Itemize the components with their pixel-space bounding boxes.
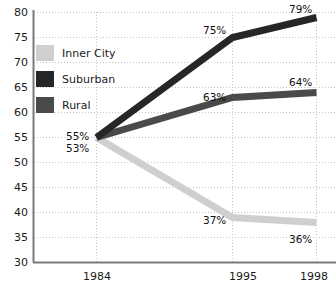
chart-canvas: 80 75 70 65 60 55 50 45 40 35 30 1984 19… — [0, 0, 336, 285]
line-chart: 80 75 70 65 60 55 50 45 40 35 30 1984 19… — [0, 0, 336, 285]
data-labels: 55% 53% 75% 79% 63% 64% 37% 36% — [66, 3, 312, 245]
datalabel-inner-city-1998: 36% — [289, 233, 312, 245]
legend-swatch-rural — [36, 97, 54, 113]
chart-legend: Inner City Suburban Rural — [36, 45, 116, 113]
y-tick-60: 60 — [14, 106, 28, 119]
x-tick-1984: 1984 — [83, 270, 111, 283]
datalabel-suburban-1984: 55% — [66, 130, 89, 142]
legend-label-rural: Rural — [62, 99, 90, 112]
legend-item-inner-city[interactable]: Inner City — [36, 45, 116, 61]
y-tick-75: 75 — [14, 31, 28, 44]
y-tick-80: 80 — [14, 6, 28, 19]
y-tick-50: 50 — [14, 156, 28, 169]
y-tick-65: 65 — [14, 81, 28, 94]
datalabel-rural-1998: 64% — [289, 76, 312, 88]
datalabel-suburban-1998: 79% — [289, 3, 312, 15]
datalabel-inner-city-1995: 37% — [203, 214, 226, 226]
legend-label-inner-city: Inner City — [62, 47, 116, 60]
legend-item-suburban[interactable]: Suburban — [36, 71, 115, 87]
datalabel-suburban-1995: 75% — [203, 24, 226, 36]
legend-item-rural[interactable]: Rural — [36, 97, 90, 113]
x-tick-1998: 1998 — [300, 270, 328, 283]
y-tick-45: 45 — [14, 181, 28, 194]
legend-swatch-suburban — [36, 71, 54, 87]
y-tick-70: 70 — [14, 56, 28, 69]
y-tick-40: 40 — [14, 206, 28, 219]
y-tick-30: 30 — [14, 256, 28, 269]
legend-label-suburban: Suburban — [62, 73, 115, 86]
datalabel-inner-city-1984: 53% — [66, 142, 89, 154]
series-line-inner-city — [97, 138, 317, 223]
legend-swatch-inner-city — [36, 45, 54, 61]
datalabel-rural-1995: 63% — [203, 91, 226, 103]
x-tick-1995: 1995 — [229, 270, 257, 283]
y-tick-35: 35 — [14, 231, 28, 244]
x-axis-labels: 1984 1995 1998 — [83, 270, 328, 283]
y-axis-labels: 80 75 70 65 60 55 50 45 40 35 30 — [14, 6, 28, 269]
y-tick-55: 55 — [14, 131, 28, 144]
